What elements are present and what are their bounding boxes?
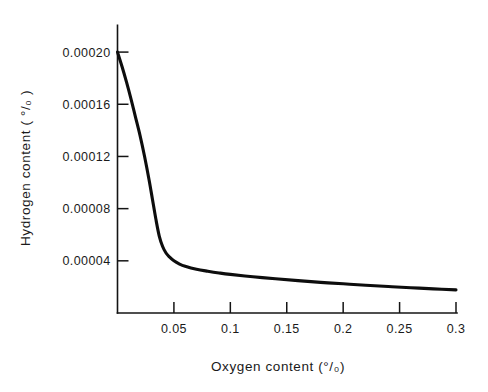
- x-tick-label: 0.25: [387, 322, 413, 336]
- x-tick-label: 0.3: [447, 322, 466, 336]
- x-tick-label: 0.05: [161, 322, 187, 336]
- y-axis-title: Hydrogen content ( °/₀ ): [18, 90, 33, 246]
- axes-group: [118, 25, 458, 313]
- data-series-group: [118, 52, 457, 290]
- chart-plot-area: 0.000040.000080.000120.000160.00020 0.05…: [0, 0, 488, 392]
- chart-figure: 0.000040.000080.000120.000160.00020 0.05…: [0, 0, 488, 392]
- y-tick-label: 0.00016: [63, 98, 111, 112]
- y-axis-ticks: 0.000040.000080.000120.000160.00020: [63, 46, 129, 269]
- x-axis-ticks: 0.050.10.150.20.250.3: [161, 302, 465, 336]
- y-tick-label: 0.00020: [63, 46, 111, 60]
- y-tick-label: 0.00008: [63, 202, 111, 216]
- x-tick-label: 0.15: [274, 322, 300, 336]
- y-tick-label: 0.00012: [63, 150, 111, 164]
- x-tick-label: 0.2: [334, 322, 353, 336]
- data-curve-hydrogen: [118, 52, 457, 290]
- y-tick-label: 0.00004: [63, 254, 111, 268]
- x-axis-title: Oxygen content (°/₀): [211, 359, 345, 374]
- x-tick-label: 0.1: [221, 322, 240, 336]
